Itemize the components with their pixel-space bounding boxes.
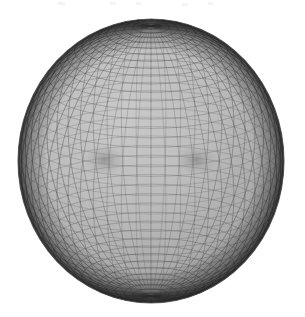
wireframe-mesh-graphic [0,0,305,317]
rim-shadow [18,19,284,303]
figure-canvas [0,0,305,317]
